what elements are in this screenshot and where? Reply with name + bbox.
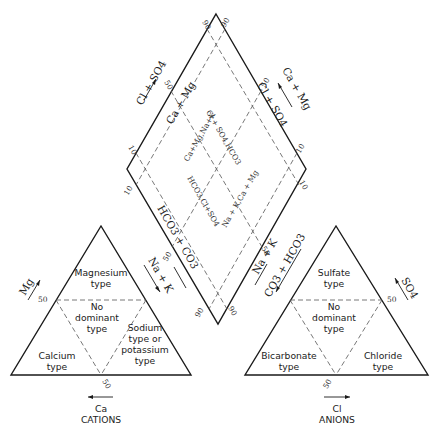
diamond-tick-top-right: 90 [219,16,232,29]
svg-text:Ca: Ca [95,403,107,414]
cations-tick-bottom-50: 50 [100,378,113,391]
svg-text:Cl: Cl [333,403,342,414]
mg-axis-label: Mg [16,276,40,300]
svg-text:Ca + Mg: Ca + Mg [280,65,314,112]
piper-diagram: Magnesiumtype Nodominanttype Calciumtype… [0,0,437,436]
anions-zone-sulfate: Sulfatetype [318,267,351,289]
anions-tick-bottom-50: 50 [321,377,334,390]
diamond-label-hco3-co3: HCO3 + CO3 [155,203,201,271]
diamond-inner-label-bl: HCO3,Cl+SO4 [185,175,221,229]
diamond-tick-mid-lower-left: 50 [161,250,174,263]
cations-zone-magnesium: Magnesiumtype [75,267,128,289]
svg-text:Na + K: Na + K [146,255,176,295]
svg-text:SO4: SO4 [399,275,421,301]
ca-axis-label: Ca [88,395,113,414]
diamond-label-ca-mg-outer: Ca + Mg [278,65,314,112]
cl-axis-label: Cl [324,395,350,414]
diamond-tick-top-left: 90 [200,19,213,32]
anions-zone-chloride: Chloridetype [364,350,403,372]
anions-triangle: Sulfatetype Nodominanttype Bicarbonatety… [245,226,428,425]
cations-caption: CATIONS [81,414,121,425]
diamond-inner-label-br: Na + K,Ca + Mg [220,168,260,229]
diamond-inner-label-tr: Cl + SO4,HCO3 [204,109,243,167]
na-k-axis-label: Na + K [144,255,176,295]
cations-tick-left-50: 50 [38,295,48,304]
cations-zone-calcium: Calciumtype [39,350,76,372]
so4-axis-label: SO4 [395,275,421,301]
diamond-tick-right-upper: 10 [294,142,307,155]
svg-text:Mg: Mg [16,276,35,297]
diamond-plot: 90 90 50 50 10 10 10 10 90 90 50 50 Cl +… [122,14,314,324]
cations-zone-sodium: Sodiumtype orpotassiumtype [121,322,169,366]
anions-tick-right-50: 50 [387,295,397,304]
hco3-underline [174,267,186,288]
anions-caption: ANIONS [319,414,355,425]
anions-zone-no-dominant: Nodominanttype [312,301,356,334]
diamond-tick-left-lower: 10 [122,184,135,197]
diamond-label-cl-so4-inner: Cl + SO4 [255,80,290,129]
anions-zone-bicarbonate: Bicarbonatetype [261,350,317,372]
diamond-tick-bottom-left: 90 [193,306,206,319]
cations-zone-no-dominant: Nodominanttype [75,301,119,334]
